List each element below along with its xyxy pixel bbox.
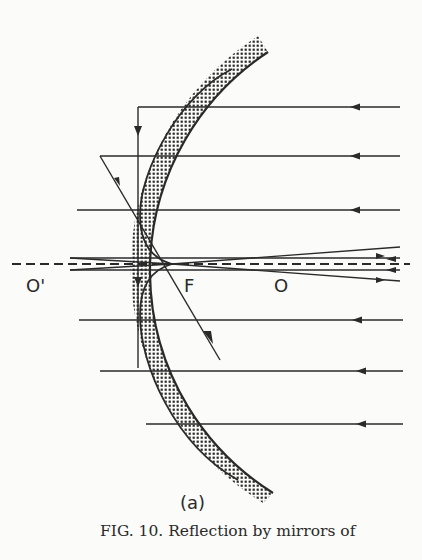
incident-rays <box>77 107 403 424</box>
mirror-reflection-diagram: O' F O (a) <box>0 0 422 560</box>
label-focus: F <box>184 275 194 296</box>
label-mirror-vertex: O' <box>26 275 45 296</box>
arrow-down-icon <box>134 126 142 136</box>
label-center: O <box>274 275 288 296</box>
panel-label: (a) <box>180 492 205 513</box>
incident-ray-arrows <box>350 104 366 428</box>
figure-caption: FIG. 10. Reflection by mirrors of <box>100 522 355 540</box>
